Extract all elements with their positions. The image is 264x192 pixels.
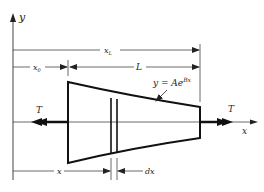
- x-dimension-label: x: [57, 167, 62, 176]
- element-slice: [111, 98, 117, 154]
- right-force-arrow: [200, 118, 233, 126]
- x0-label: x0: [33, 63, 42, 73]
- right-force-label: T: [228, 104, 235, 114]
- left-force-arrow: [31, 118, 68, 126]
- L-label: L: [135, 62, 142, 72]
- tapered-bar-diagram: y x xL x0 L y = AeBx T: [0, 0, 264, 192]
- left-force-label: T: [36, 105, 43, 115]
- equation-label: y = AeBx: [152, 76, 192, 88]
- y-axis: [10, 13, 16, 180]
- dx-label: dx: [145, 167, 155, 176]
- tapered-bar-body: [68, 82, 200, 163]
- y-axis-label: y: [18, 11, 26, 24]
- xl-label: xL: [104, 46, 113, 56]
- equation-leader: [156, 90, 167, 101]
- x-axis-label: x: [242, 126, 247, 136]
